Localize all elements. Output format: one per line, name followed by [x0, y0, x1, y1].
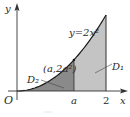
- origin-label: O: [4, 94, 13, 107]
- tick-label-2: 2: [103, 95, 109, 106]
- curve-label: y=2x²: [68, 27, 99, 38]
- tick-label-a: a: [71, 95, 77, 106]
- point-label: (a,2a²): [43, 63, 76, 74]
- y-axis-label: y: [4, 3, 11, 14]
- region-label-d2: D₂: [26, 74, 39, 85]
- point-marker: [73, 59, 75, 61]
- diagram: y x O a 2 y=2x² (a,2a²) D₂ D₁: [0, 0, 130, 117]
- region-label-d1: D₁: [111, 61, 124, 72]
- x-axis-label: x: [120, 95, 126, 106]
